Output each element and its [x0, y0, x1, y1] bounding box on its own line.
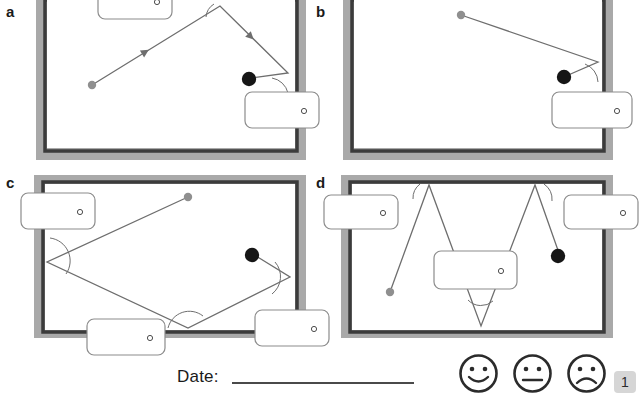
target-ball-b — [557, 70, 571, 84]
answer-box-d2-frame[interactable] — [564, 195, 638, 229]
answer-box-d3[interactable] — [433, 250, 518, 290]
cue-ball-a — [88, 81, 96, 89]
cue-ball-b — [457, 11, 465, 19]
target-ball-a — [242, 72, 256, 86]
answer-box-c1-frame[interactable] — [21, 193, 95, 229]
smiley-sad-icon[interactable] — [566, 353, 607, 394]
panel-d: d — [313, 170, 639, 355]
panel-a: a — [0, 0, 320, 170]
answer-box-c1[interactable] — [20, 192, 96, 230]
cue-ball-c — [184, 193, 192, 201]
answer-box-d2[interactable] — [563, 194, 639, 230]
panel-c: c — [0, 170, 320, 355]
answer-box-c2-frame[interactable] — [87, 319, 165, 355]
worksheet-sheet: a — [0, 0, 639, 394]
answer-box-d1[interactable] — [323, 194, 399, 230]
date-label: Date: — [177, 367, 219, 387]
answer-box-a2-frame[interactable] — [245, 92, 319, 128]
panel-b-diagram — [313, 0, 639, 170]
page-number-badge: 1 — [614, 371, 636, 393]
smiley-neutral-icon[interactable] — [512, 353, 553, 394]
answer-box-a1-frame[interactable] — [98, 0, 172, 19]
panel-b-letter: b — [316, 4, 325, 19]
cue-ball-d — [386, 288, 394, 296]
smiley-happy-icon[interactable] — [458, 353, 499, 394]
answer-box-a1[interactable] — [97, 0, 173, 20]
panel-b: b — [313, 0, 639, 170]
panel-c-letter: c — [6, 175, 14, 190]
target-ball-d — [551, 249, 565, 263]
panel-a-diagram — [0, 0, 320, 170]
answer-box-d3-frame[interactable] — [434, 251, 517, 289]
answer-box-c2[interactable] — [86, 318, 166, 356]
target-ball-c — [245, 248, 259, 262]
answer-box-d1-frame[interactable] — [324, 195, 398, 229]
answer-box-b1-frame[interactable] — [552, 92, 632, 128]
panel-a-letter: a — [6, 4, 14, 19]
panel-d-letter: d — [316, 175, 325, 190]
answer-box-b1[interactable] — [551, 91, 633, 129]
date-input-line[interactable] — [232, 382, 414, 384]
mood-rating-group — [458, 353, 607, 394]
answer-box-a2[interactable] — [244, 91, 320, 129]
